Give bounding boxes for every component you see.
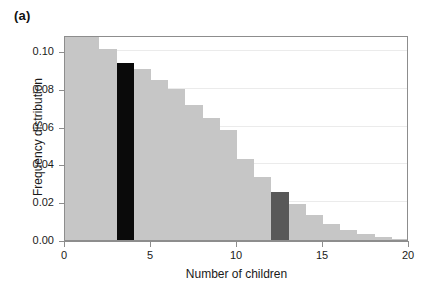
- x-tick-label: 5: [130, 249, 170, 261]
- bar: [392, 239, 408, 240]
- y-tick-label: 0.02: [0, 196, 54, 208]
- bar: [340, 230, 357, 240]
- bar: [82, 36, 99, 240]
- bar: [289, 204, 306, 240]
- y-axis-line: [64, 36, 65, 242]
- bar: [271, 192, 288, 240]
- y-tick: [59, 165, 64, 166]
- bar: [151, 80, 168, 240]
- y-tick-label: 0.06: [0, 121, 54, 133]
- x-tick: [408, 242, 409, 247]
- y-tick-label: 0.04: [0, 158, 54, 170]
- y-tick-label: 0.00: [0, 234, 54, 246]
- bar: [237, 159, 254, 240]
- y-axis-title: Frequency distribution: [31, 37, 45, 237]
- bar: [134, 69, 151, 240]
- bar: [168, 89, 185, 240]
- x-tick-label: 10: [216, 249, 256, 261]
- bar: [220, 130, 237, 240]
- x-tick-label: 15: [302, 249, 342, 261]
- bar: [323, 224, 340, 240]
- y-tick-label: 0.10: [0, 45, 54, 57]
- x-tick-label: 0: [44, 249, 84, 261]
- bar: [375, 237, 392, 240]
- bar: [357, 234, 374, 240]
- bar: [203, 118, 220, 240]
- x-tick: [64, 242, 65, 247]
- x-tick: [236, 242, 237, 247]
- y-tick: [59, 52, 64, 53]
- bar: [99, 49, 116, 240]
- y-tick-label: 0.08: [0, 83, 54, 95]
- y-tick: [59, 128, 64, 129]
- x-axis-title: Number of children: [64, 267, 409, 281]
- bar: [254, 177, 271, 240]
- x-tick-label: 20: [388, 249, 426, 261]
- panel-label: (a): [14, 8, 31, 23]
- x-tick: [322, 242, 323, 247]
- bar: [65, 36, 82, 240]
- y-tick: [59, 241, 64, 242]
- bar: [117, 63, 134, 240]
- y-tick: [59, 203, 64, 204]
- x-tick: [150, 242, 151, 247]
- y-tick: [59, 90, 64, 91]
- bar: [306, 215, 323, 241]
- bar: [185, 105, 202, 240]
- figure-panel-a: (a) 05101520 0.000.020.040.060.080.10 Nu…: [0, 0, 426, 295]
- plot-area: [64, 36, 408, 241]
